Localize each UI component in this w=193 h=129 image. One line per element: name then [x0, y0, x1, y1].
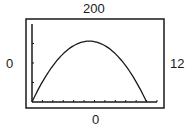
axes [32, 24, 157, 102]
graph-window [0, 0, 193, 129]
data-curve [32, 41, 147, 102]
